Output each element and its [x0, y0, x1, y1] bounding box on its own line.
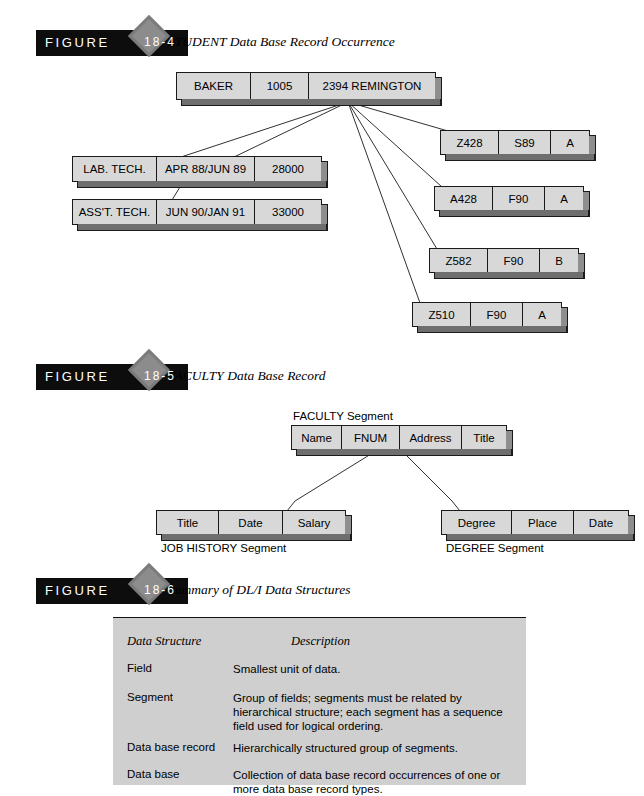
table-header-description: Description	[291, 634, 350, 649]
figure-caption-18-6: Summary of DL/I Data Structures	[168, 582, 351, 598]
faculty-segment-label: FACULTY Segment	[293, 410, 393, 422]
figure-number: 18-4	[132, 35, 188, 49]
record-root: BAKER 1005 2394 REMINGTON	[176, 72, 436, 100]
record-cell: 2394 REMINGTON	[309, 73, 435, 99]
record-cell: ASS'T. TECH.	[73, 200, 157, 224]
table-row: Data base	[127, 768, 179, 780]
record-cell: 33000	[255, 200, 321, 224]
record-cell: A	[545, 187, 583, 210]
record-cell: Z428	[441, 131, 499, 154]
table-row: Segment	[127, 691, 173, 703]
record-cell: F90	[493, 187, 545, 210]
table-header-structure: Data Structure	[127, 634, 201, 649]
record-cell: Name	[292, 426, 342, 449]
record-cell: FNUM	[342, 426, 400, 449]
record-cell: APR 88/JUN 89	[157, 157, 255, 181]
record-cell: 28000	[255, 157, 321, 181]
record-cell: Degree	[442, 511, 512, 534]
record-cell: F90	[488, 249, 540, 272]
record-cell: BAKER	[177, 73, 251, 99]
record-cell: Address	[400, 426, 462, 449]
table-row: Hierarchically structured group of segme…	[233, 741, 523, 755]
record-cell: Salary	[283, 511, 345, 534]
record-cell: Z510	[413, 303, 471, 326]
record-cell: A	[523, 303, 561, 326]
figure-caption-18-5: FACULTY Data Base Record	[168, 368, 326, 384]
record-job-history: LAB. TECH. APR 88/JUN 89 28000	[72, 156, 322, 182]
record-course: Z428 S89 A	[440, 130, 590, 155]
job-history-segment-label: JOB HISTORY Segment	[161, 542, 286, 554]
table-row: Data base record	[127, 741, 215, 753]
table-row: Field	[127, 662, 152, 674]
record-cell: A	[551, 131, 589, 154]
figure-caption-18-4: STUDENT Data Base Record Occurrence	[168, 34, 395, 50]
record-cell: S89	[499, 131, 551, 154]
record-cell: Place	[512, 511, 574, 534]
record-cell: 1005	[251, 73, 309, 99]
record-cell: Title	[157, 511, 219, 534]
table-row: Smallest unit of data.	[233, 662, 523, 676]
figure-word: FIGURE	[45, 35, 110, 50]
degree-segment-label: DEGREE Segment	[446, 542, 544, 554]
record-course: Z582 F90 B	[429, 248, 579, 273]
figure-word: FIGURE	[45, 583, 110, 598]
record-cell: Date	[219, 511, 283, 534]
record-cell: Z582	[430, 249, 488, 272]
figure-word: FIGURE	[45, 369, 110, 384]
record-cell: F90	[471, 303, 523, 326]
record-cell: Date	[574, 511, 628, 534]
record-cell: B	[540, 249, 578, 272]
record-cell: JUN 90/JAN 91	[157, 200, 255, 224]
record-cell: A428	[435, 187, 493, 210]
record-cell: LAB. TECH.	[73, 157, 157, 181]
record-faculty-segment: Name FNUM Address Title	[291, 425, 507, 450]
record-course: Z510 F90 A	[412, 302, 562, 327]
record-job-history: ASS'T. TECH. JUN 90/JAN 91 33000	[72, 199, 322, 225]
table-row: Group of fields; segments must be relate…	[233, 691, 523, 733]
record-job-history-segment: Title Date Salary	[156, 510, 346, 535]
record-degree-segment: Degree Place Date	[441, 510, 629, 535]
figure-number: 18-6	[132, 583, 188, 597]
table-row: Collection of data base record occurrenc…	[233, 768, 523, 796]
summary-table: Data Structure Description Field Smalles…	[113, 617, 526, 785]
record-course: A428 F90 A	[434, 186, 584, 211]
figure-number: 18-5	[132, 369, 188, 383]
record-cell: Title	[462, 426, 506, 449]
